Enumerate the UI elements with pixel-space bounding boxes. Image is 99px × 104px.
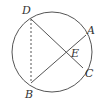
circle — [12, 12, 92, 92]
label-b: B — [24, 88, 33, 101]
label-d: D — [21, 4, 31, 17]
geometry-diagram: D A E C B — [0, 0, 99, 104]
label-e: E — [70, 47, 79, 60]
label-a: A — [86, 24, 95, 37]
label-c: C — [85, 67, 94, 80]
